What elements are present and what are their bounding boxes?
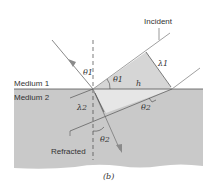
refraction-diagram: Incident Medium 1 Medium 2 Refracted θ1 … <box>0 0 214 191</box>
theta1-normal-label: θ1 <box>83 68 93 77</box>
medium2-label: Medium 2 <box>14 93 50 102</box>
incident-wavefront-2 <box>172 68 200 89</box>
h-label: h <box>136 79 141 88</box>
lambda1-label: λ1 <box>157 59 168 68</box>
figure-caption: (b) <box>103 172 114 181</box>
theta2-normal-label: θ2 <box>100 135 110 144</box>
refracted-label: Refracted <box>51 147 86 156</box>
lambda2-label: λ2 <box>76 103 87 112</box>
incident-label: Incident <box>144 17 173 26</box>
theta2-wavefront-label: θ2 <box>141 103 151 112</box>
theta1-wavefront-label: θ1 <box>113 75 123 84</box>
incident-arrow-icon <box>68 59 76 67</box>
medium1-label: Medium 1 <box>14 79 50 88</box>
incident-wedge <box>93 52 172 89</box>
